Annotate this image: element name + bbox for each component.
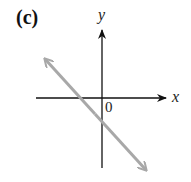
origin-label: 0: [105, 99, 113, 116]
x-axis-label: x: [172, 88, 179, 106]
panel-label: (c): [16, 6, 38, 29]
graphed-line-upper: [45, 59, 95, 114]
y-axis-label: y: [98, 6, 105, 24]
coordinate-plane-figure: (c) y x 0: [0, 0, 191, 182]
